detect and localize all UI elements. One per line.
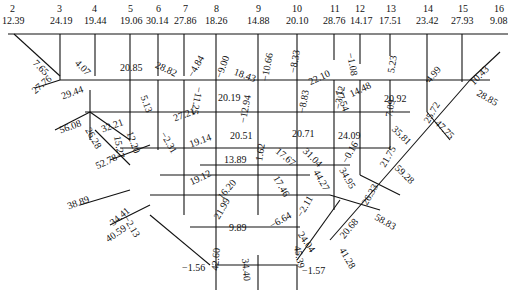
- member-label: 20.71: [292, 129, 315, 139]
- node-value-7: 27.86: [174, 16, 197, 26]
- node-value-11: 28.76: [323, 16, 346, 26]
- node-value-6: 30.14: [146, 16, 169, 26]
- node-id-2: 2: [10, 4, 15, 14]
- member-label: −1.57: [302, 266, 325, 276]
- member-label: 20.85: [120, 63, 143, 73]
- node-value-13: 17.51: [379, 16, 402, 26]
- node-value-16: 9.08: [490, 16, 508, 26]
- node-value-3: 24.19: [50, 16, 73, 26]
- member-label: −1.56: [182, 263, 205, 273]
- member-label: 20.19: [218, 93, 241, 103]
- force-diagram: 2 12.39 3 24.19 4 19.44 5 19.06 6 30.14 …: [0, 0, 522, 304]
- node-id-13: 13: [386, 4, 396, 14]
- node-id-6: 6: [156, 4, 161, 14]
- node-id-15: 15: [458, 4, 468, 14]
- node-id-10: 10: [292, 4, 302, 14]
- member-label: 9.89: [229, 223, 247, 233]
- node-value-4: 19.44: [84, 16, 107, 26]
- node-value-12: 14.17: [350, 16, 373, 26]
- node-value-5: 19.06: [120, 16, 143, 26]
- node-id-9: 9: [256, 4, 261, 14]
- node-id-8: 8: [214, 4, 219, 14]
- node-value-14: 23.42: [416, 16, 439, 26]
- node-id-5: 5: [128, 4, 133, 14]
- member-label: 34.40: [240, 258, 252, 281]
- node-value-10: 20.10: [286, 16, 309, 26]
- node-value-15: 27.93: [451, 16, 474, 26]
- node-id-4: 4: [92, 4, 97, 14]
- node-id-12: 12: [355, 4, 365, 14]
- member-label: 42.60: [210, 248, 222, 271]
- node-value-2: 12.39: [2, 16, 25, 26]
- node-id-3: 3: [57, 4, 62, 14]
- node-id-14: 14: [423, 4, 433, 14]
- node-id-16: 16: [494, 4, 504, 14]
- node-value-8: 18.26: [205, 16, 228, 26]
- node-value-9: 14.88: [247, 16, 270, 26]
- member-label: 20.51: [230, 131, 253, 141]
- node-id-11: 11: [330, 4, 340, 14]
- member-label: 13.89: [224, 155, 247, 165]
- node-id-7: 7: [183, 4, 188, 14]
